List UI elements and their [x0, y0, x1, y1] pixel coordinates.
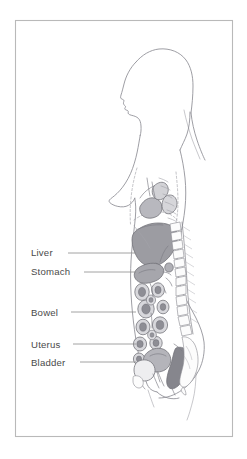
head-hair-outline [136, 49, 193, 113]
bowel-loop [146, 295, 155, 305]
thoracic-organs-group [140, 178, 177, 218]
bowel-loop [152, 317, 167, 333]
rib-line [159, 178, 168, 182]
hair-back-outline [191, 113, 205, 160]
vertebra-body [173, 249, 184, 259]
label-bowel: Bowel [31, 307, 58, 318]
stomach-shape [134, 263, 164, 283]
anal-canal-line [172, 388, 175, 395]
neck-shoulder-outline [180, 112, 190, 150]
label-uterus: Uterus [31, 339, 60, 350]
duodenum-loop [165, 263, 174, 272]
vertebra-body [176, 295, 187, 306]
vertebra-body [172, 240, 183, 250]
bowel-loop [157, 300, 169, 314]
mesentery-line-a [166, 278, 172, 286]
vertebra-body [175, 267, 186, 277]
vertebra-body [174, 258, 185, 268]
thigh-front-fade [148, 390, 154, 407]
labels-group: Liver Stomach Bowel Uterus Bladder [31, 247, 70, 368]
vertebra-body [176, 276, 186, 286]
chest-wall-dashed-back [176, 172, 178, 224]
chest-wall-dashed-front [130, 168, 137, 224]
anatomy-diagram-svg: Liver Stomach Bowel Uterus Bladder [0, 0, 247, 459]
trachea-line [147, 178, 150, 196]
vertebra-body [180, 325, 192, 336]
label-liver: Liver [31, 247, 53, 258]
pelvic-organs-group [134, 344, 189, 395]
face-profile-outline [121, 62, 141, 135]
anatomy-figure: Liver Stomach Bowel Uterus Bladder [0, 0, 247, 459]
vertebra-body [171, 231, 182, 241]
vertebra-body [176, 285, 186, 296]
vertebra-body [178, 315, 190, 326]
heart-shape [140, 198, 162, 218]
bowel-loop [148, 330, 157, 340]
bowel-loop [136, 319, 150, 335]
leader-lines-group [68, 253, 136, 362]
chest-breast-outline [109, 135, 140, 206]
coccyx-shape [181, 387, 186, 395]
vertebra-body [177, 305, 188, 316]
vertebra-body [170, 222, 181, 232]
label-stomach: Stomach [31, 266, 70, 277]
rib-line [168, 218, 177, 222]
pylorus-line [163, 272, 171, 275]
label-bladder: Bladder [31, 357, 66, 368]
bowel-loop [152, 283, 165, 297]
